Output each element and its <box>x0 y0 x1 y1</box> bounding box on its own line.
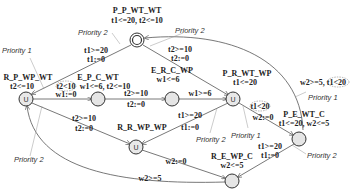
svg-text:t1:=0: t1:=0 <box>181 123 199 132</box>
svg-text:t2>=10: t2>=10 <box>124 89 148 98</box>
svg-text:t1:=0: t1:=0 <box>261 151 279 160</box>
priority-label: Priority 2 <box>307 151 337 160</box>
svg-text:w1<=6: w1<=6 <box>157 75 180 84</box>
svg-text:U: U <box>133 144 138 152</box>
svg-text:U: U <box>23 96 28 104</box>
svg-text:P_E_WT_C: P_E_WT_C <box>283 110 325 119</box>
svg-text:w2>=5, t1<20: w2>=5, t1<20 <box>300 78 346 87</box>
node-rpwpwt[interactable]: U R_P_WP_WT t2<=10 <box>4 73 54 106</box>
svg-text:t2:=0: t2:=0 <box>127 100 145 109</box>
svg-text:R_P_WP_WT: R_P_WP_WT <box>4 73 54 82</box>
node-pewtc[interactable]: P_E_WT_C t1<=20, w2<=5 <box>279 110 330 146</box>
priority-label: Priority 1 <box>2 46 32 55</box>
node-epcwt[interactable]: E_P_C_WT w1<=6, t2<=10 <box>77 73 130 106</box>
svg-text:w2:=0: w2:=0 <box>253 113 274 122</box>
svg-text:P_P_WT_WT: P_P_WT_WT <box>113 6 162 15</box>
svg-text:w1:=0: w1:=0 <box>56 90 77 99</box>
svg-text:E_R_C_WP: E_R_C_WP <box>151 66 193 75</box>
svg-text:t1:=0: t1:=0 <box>87 55 105 64</box>
svg-text:w2<=5: w2<=5 <box>221 161 244 170</box>
node-prwtwp[interactable]: U P_R_WT_WP t1<=20 <box>223 69 272 106</box>
svg-text:U: U <box>230 96 235 104</box>
svg-text:E_P_C_WT: E_P_C_WT <box>77 73 119 82</box>
node-ppwtwt[interactable]: P_P_WT_WT t1<=20, t2<=10 <box>111 6 163 47</box>
svg-text:t1>=20: t1>=20 <box>258 142 282 151</box>
priority-label: Priority 2 <box>78 28 108 37</box>
node-ercwp[interactable]: E_R_C_WP w1<=6 <box>151 66 193 106</box>
svg-text:t2:=0: t2:=0 <box>75 124 93 133</box>
svg-text:w2>=5: w2>=5 <box>139 174 162 183</box>
priority-label: Priority 1 <box>308 93 338 102</box>
svg-text:t1>=20: t1>=20 <box>178 111 202 120</box>
priority-label: Priority 1 <box>231 131 261 140</box>
svg-text:R_R_WP_WP: R_R_WP_WP <box>117 123 166 132</box>
node-rewpc[interactable]: R_E_WP_C w2<=5 <box>211 152 253 188</box>
priority-label: Priority 2 <box>196 135 226 144</box>
priority-label: Priority 2 <box>175 26 205 35</box>
svg-text:t1<=20, w2<=5: t1<=20, w2<=5 <box>279 119 330 128</box>
node-rrwpwp[interactable]: U R_R_WP_WP <box>117 123 166 154</box>
svg-text:t1>=20: t1>=20 <box>84 46 108 55</box>
svg-text:w1>=6: w1>=6 <box>189 89 212 98</box>
svg-text:t2>=10: t2>=10 <box>168 45 192 54</box>
svg-text:w1<=6, t2<=10: w1<=6, t2<=10 <box>80 82 131 91</box>
svg-text:t1<=20: t1<=20 <box>233 78 257 87</box>
svg-text:P_R_WT_WP: P_R_WT_WP <box>223 69 272 78</box>
svg-text:w2:=0: w2:=0 <box>166 157 187 166</box>
svg-text:t2>=10: t2>=10 <box>72 114 96 123</box>
timed-automaton-diagram: P_P_WT_WT t1<=20, t2<=10 U R_P_WP_WT t2<… <box>0 0 354 193</box>
svg-text:R_E_WP_C: R_E_WP_C <box>211 152 253 161</box>
svg-text:t1<=20, t2<=10: t1<=20, t2<=10 <box>111 16 163 25</box>
svg-text:t2<=10: t2<=10 <box>10 82 34 91</box>
priority-label: Priority 2 <box>14 155 44 164</box>
svg-text:t1<20: t1<20 <box>250 102 269 111</box>
svg-text:t2:=0: t2:=0 <box>171 54 189 63</box>
